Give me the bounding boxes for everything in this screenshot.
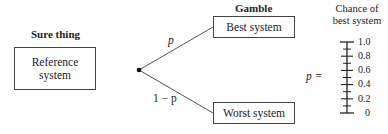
tick-label-0-8: 0.8 — [358, 51, 371, 61]
tick-label-0-6: 0.6 — [358, 65, 371, 75]
chance-node-dot — [137, 68, 142, 73]
best-system-box: Best system — [213, 16, 295, 38]
upper-branch-probability-label: p — [168, 34, 174, 46]
reference-system-label-line2: system — [39, 69, 71, 82]
gamble-heading: Gamble — [235, 2, 272, 14]
sure-thing-heading: Sure thing — [31, 28, 80, 40]
tick-label-0-4: 0.4 — [358, 79, 371, 89]
scale-title: Chance of best system — [317, 3, 388, 27]
scale-title-line2: best system — [317, 15, 388, 27]
reference-system-label-line1: Reference — [32, 56, 79, 69]
lower-branch-probability-label: 1 − p — [153, 92, 177, 104]
tick-label-1-0: 1.0 — [358, 37, 371, 47]
tick-label-0: 0 — [365, 108, 370, 118]
p-equals-label: p = — [306, 70, 322, 82]
reference-system-box: Reference system — [14, 47, 96, 90]
worst-system-box: Worst system — [213, 102, 295, 124]
tick-label-0-2: 0.2 — [358, 94, 371, 104]
scale-title-line1: Chance of — [317, 3, 388, 15]
upper-branch-line — [139, 27, 213, 70]
